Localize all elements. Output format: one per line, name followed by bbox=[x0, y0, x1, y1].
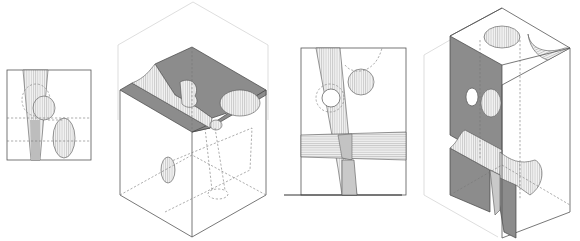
panel-axonometric-left bbox=[118, 2, 268, 237]
hole-small bbox=[466, 88, 478, 106]
drawing-svg bbox=[0, 0, 580, 241]
oval-void bbox=[220, 90, 260, 116]
cylinder-opening bbox=[161, 157, 175, 183]
panel-elevation bbox=[284, 48, 406, 195]
hole-large bbox=[481, 89, 501, 117]
top-cylinder-void bbox=[484, 26, 520, 48]
panel-plan-small bbox=[7, 70, 91, 160]
circular-opening-small bbox=[322, 89, 340, 107]
circular-opening-large bbox=[348, 69, 374, 95]
horizontal-band bbox=[301, 132, 406, 160]
cylinder-void-oval bbox=[53, 118, 75, 158]
panel-axonometric-right bbox=[424, 8, 570, 238]
figure-canvas bbox=[0, 0, 580, 241]
cylinder-void-circle bbox=[33, 96, 55, 120]
